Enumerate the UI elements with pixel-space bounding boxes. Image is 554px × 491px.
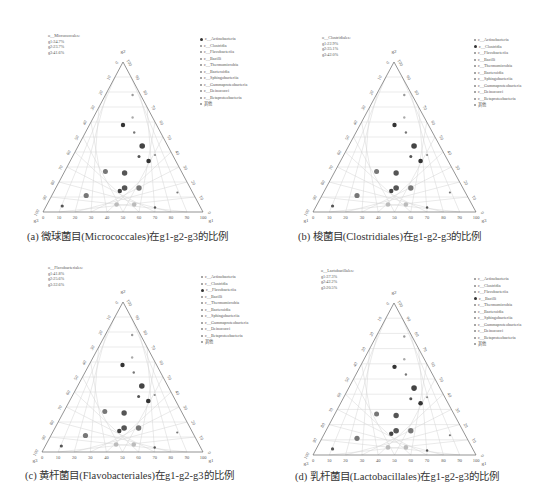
data-point xyxy=(83,433,88,438)
legend-marker-icon xyxy=(474,91,476,93)
data-point xyxy=(354,193,359,198)
legend: c__Actinobacteriac__Clostridiac__Flavoba… xyxy=(200,36,247,108)
svg-text:40: 40 xyxy=(104,455,109,460)
svg-text:100: 100 xyxy=(125,299,133,308)
svg-text:50: 50 xyxy=(438,135,445,142)
svg-text:20: 20 xyxy=(368,330,375,337)
svg-text:0: 0 xyxy=(41,455,44,460)
svg-text:20: 20 xyxy=(343,215,348,220)
legend-marker-icon xyxy=(474,343,476,345)
svg-text:80: 80 xyxy=(169,455,174,460)
data-point xyxy=(154,446,156,448)
svg-text:10: 10 xyxy=(471,437,478,444)
data-point xyxy=(121,425,127,431)
svg-text:50: 50 xyxy=(344,376,351,383)
legend-marker-icon xyxy=(474,317,476,319)
svg-text:100: 100 xyxy=(33,208,41,217)
legend-label: 其他 xyxy=(205,339,213,346)
svg-text:10: 10 xyxy=(471,195,478,202)
data-point xyxy=(393,413,398,418)
data-point xyxy=(103,169,108,174)
svg-text:80: 80 xyxy=(142,90,149,97)
data-point xyxy=(122,170,127,175)
svg-text:100: 100 xyxy=(200,215,208,220)
data-point xyxy=(60,444,63,447)
figure-caption: (c) 黄杆菌目(Flavobacteriales)在g1-g2-g3的比例 xyxy=(25,467,234,482)
svg-text:50: 50 xyxy=(120,455,125,460)
legend-item: 其他 xyxy=(201,339,248,346)
svg-text:10: 10 xyxy=(376,315,383,322)
data-point xyxy=(409,397,412,400)
data-point xyxy=(136,185,141,190)
svg-text:30: 30 xyxy=(89,344,96,351)
legend-marker-icon xyxy=(474,65,476,67)
legend-marker-icon xyxy=(474,304,476,306)
data-point xyxy=(137,395,140,398)
svg-text:20: 20 xyxy=(368,89,375,96)
svg-text:70: 70 xyxy=(328,164,335,171)
svg-text:100: 100 xyxy=(396,59,404,68)
svg-text:0: 0 xyxy=(385,301,391,306)
data-point xyxy=(408,428,413,433)
svg-text:60: 60 xyxy=(158,360,165,367)
legend-marker-icon xyxy=(474,297,477,300)
legend-marker-icon xyxy=(474,52,476,54)
data-point xyxy=(374,169,379,174)
data-point xyxy=(146,159,151,164)
data-point xyxy=(393,170,398,175)
svg-text:90: 90 xyxy=(41,194,48,201)
data-point xyxy=(392,123,396,127)
svg-text:20: 20 xyxy=(97,329,104,336)
legend-marker-icon xyxy=(474,330,476,332)
svg-text:10: 10 xyxy=(376,74,383,81)
svg-text:70: 70 xyxy=(422,346,429,353)
svg-text:40: 40 xyxy=(352,361,359,368)
legend-marker-icon xyxy=(200,103,202,105)
svg-text:80: 80 xyxy=(169,215,174,220)
data-point xyxy=(354,436,359,441)
data-point xyxy=(426,206,428,208)
svg-text:30: 30 xyxy=(89,104,96,111)
corner-label-right: g1 xyxy=(209,458,215,463)
legend-marker-icon xyxy=(201,328,203,330)
legend-marker-icon xyxy=(201,289,204,292)
svg-text:10: 10 xyxy=(56,455,61,460)
svg-text:60: 60 xyxy=(65,389,72,396)
figure-caption: (d) 乳杆菌目(Lactobacillales)在g1-g2-g3的比例 xyxy=(295,468,499,483)
legend-marker-icon xyxy=(474,98,476,100)
data-point xyxy=(411,143,417,149)
svg-text:10: 10 xyxy=(105,314,112,321)
svg-text:90: 90 xyxy=(185,455,190,460)
legend-marker-icon xyxy=(474,285,476,287)
svg-text:40: 40 xyxy=(446,392,453,399)
svg-text:60: 60 xyxy=(336,149,343,156)
svg-text:40: 40 xyxy=(352,119,359,126)
data-point xyxy=(404,445,409,450)
svg-text:80: 80 xyxy=(413,331,420,338)
svg-text:20: 20 xyxy=(343,458,348,463)
svg-text:0: 0 xyxy=(207,451,213,456)
svg-text:0: 0 xyxy=(312,215,315,220)
svg-text:40: 40 xyxy=(174,150,181,157)
svg-text:20: 20 xyxy=(97,89,104,96)
data-point xyxy=(133,371,135,373)
data-point xyxy=(393,428,399,434)
legend-label: 其他 xyxy=(478,341,486,348)
legend-marker-icon xyxy=(201,322,203,324)
svg-text:30: 30 xyxy=(360,458,365,463)
svg-text:20: 20 xyxy=(463,180,470,187)
svg-text:90: 90 xyxy=(457,215,462,220)
svg-text:0: 0 xyxy=(312,458,315,463)
svg-text:50: 50 xyxy=(438,377,445,384)
svg-text:30: 30 xyxy=(89,215,94,220)
svg-text:90: 90 xyxy=(185,215,190,220)
data-point xyxy=(122,185,128,191)
panel-b: o__Clostridiales: g1:22.9% g2:35.1% g3:4… xyxy=(277,0,554,245)
svg-text:40: 40 xyxy=(81,359,88,366)
svg-text:10: 10 xyxy=(105,74,112,81)
svg-text:80: 80 xyxy=(413,90,420,97)
legend-marker-icon xyxy=(201,283,203,285)
svg-text:30: 30 xyxy=(182,165,189,172)
svg-text:50: 50 xyxy=(166,135,173,142)
svg-text:90: 90 xyxy=(405,316,412,323)
